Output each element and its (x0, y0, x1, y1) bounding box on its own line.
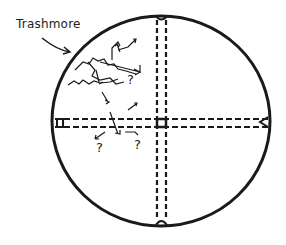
question-mark-2: ? (96, 140, 103, 155)
question-mark-1: ? (127, 72, 134, 87)
map-sketch (0, 0, 286, 245)
sketch-diagram: Trashmore ? ? ? (0, 0, 286, 245)
landfill-boundary-circle (52, 16, 270, 226)
label-arrow-icon (42, 38, 70, 54)
question-mark-3: ? (134, 137, 141, 152)
path-end-markers (57, 16, 268, 225)
trashmore-label: Trashmore (16, 17, 81, 31)
